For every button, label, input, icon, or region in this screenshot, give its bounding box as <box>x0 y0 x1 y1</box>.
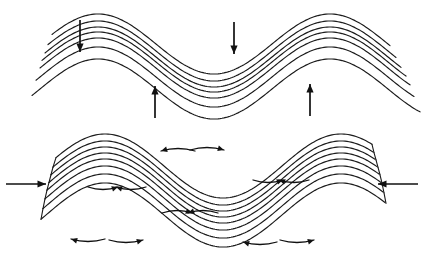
fold-diagram-svg <box>0 0 424 258</box>
flexural-slip-fold-figure <box>0 0 424 258</box>
